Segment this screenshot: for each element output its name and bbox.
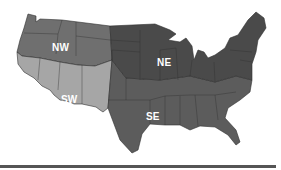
region-label-sw: SW	[61, 94, 78, 105]
region-label-se: SE	[146, 111, 160, 122]
us-regions-map	[0, 0, 281, 170]
region-ne[interactable]	[110, 12, 266, 82]
region-label-ne: NE	[157, 57, 171, 68]
bottom-divider	[0, 165, 276, 168]
region-label-nw: NW	[52, 42, 69, 53]
